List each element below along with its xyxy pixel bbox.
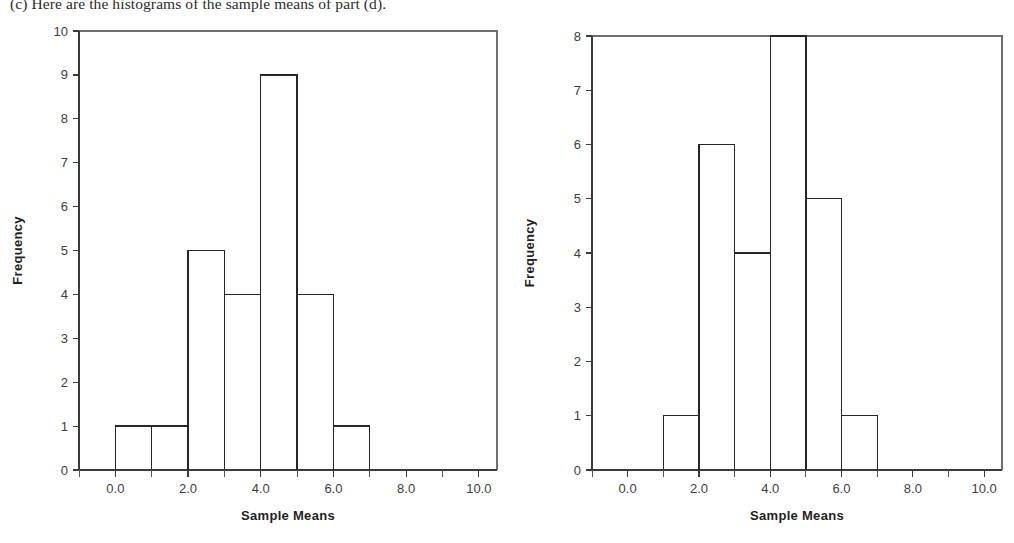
y-tick-label: 1 (61, 419, 68, 434)
x-tick-label: 10.0 (972, 481, 997, 496)
histogram-bar (333, 426, 369, 470)
x-axis-title: Sample Means (241, 508, 335, 523)
histogram-bar (152, 426, 188, 470)
histogram-bar (115, 426, 151, 470)
y-tick-label: 6 (574, 137, 581, 152)
left-histogram-svg: 0123456789100.02.04.06.08.010.0Sample Me… (0, 22, 510, 534)
histogram-bar (842, 416, 878, 470)
x-tick-label: 4.0 (761, 481, 779, 496)
y-tick-label: 3 (61, 331, 68, 346)
x-tick-label: 8.0 (904, 481, 922, 496)
y-tick-label: 4 (61, 287, 68, 302)
left-histogram-figure: 0123456789100.02.04.06.08.010.0Sample Me… (0, 22, 510, 534)
histogram-bar (188, 251, 224, 471)
x-tick-label: 6.0 (324, 481, 342, 496)
y-tick-label: 9 (61, 67, 68, 82)
right-histogram-figure: 0123456780.02.04.06.08.010.0Sample Means… (512, 22, 1014, 534)
x-tick-label: 2.0 (179, 481, 197, 496)
y-tick-label: 2 (61, 375, 68, 390)
histogram-bar (735, 253, 771, 470)
y-tick-label: 3 (574, 300, 581, 315)
histogram-bar (806, 199, 842, 470)
histogram-bar (224, 294, 260, 470)
y-tick-label: 5 (61, 243, 68, 258)
y-tick-label: 6 (61, 199, 68, 214)
y-axis-title: Frequency (10, 216, 25, 285)
y-tick-label: 1 (574, 408, 581, 423)
y-tick-label: 7 (61, 155, 68, 170)
y-tick-label: 2 (574, 354, 581, 369)
y-tick-label: 7 (574, 83, 581, 98)
right-histogram-svg: 0123456780.02.04.06.08.010.0Sample Means… (512, 22, 1014, 534)
histogram-bar (770, 36, 806, 470)
y-tick-label: 0 (61, 463, 68, 478)
x-tick-label: 0.0 (619, 481, 637, 496)
histogram-bar (699, 145, 735, 471)
x-tick-label: 6.0 (833, 481, 851, 496)
histogram-bar (261, 75, 297, 470)
histogram-bar (297, 294, 333, 470)
x-tick-label: 0.0 (106, 481, 124, 496)
y-tick-label: 5 (574, 191, 581, 206)
y-tick-label: 10 (54, 24, 68, 39)
y-axis-title: Frequency (522, 218, 537, 287)
x-tick-label: 2.0 (690, 481, 708, 496)
x-tick-label: 8.0 (397, 481, 415, 496)
x-tick-label: 10.0 (466, 481, 491, 496)
x-axis-title: Sample Means (750, 508, 844, 523)
histogram-bar (663, 416, 699, 470)
y-tick-label: 0 (574, 463, 581, 478)
plot-frame (592, 36, 1002, 470)
y-tick-label: 8 (574, 29, 581, 44)
x-tick-label: 4.0 (252, 481, 270, 496)
page-caption: (c) Here are the histograms of the sampl… (10, 0, 386, 13)
y-tick-label: 4 (574, 246, 581, 261)
plot-frame (79, 31, 497, 470)
y-tick-label: 8 (61, 111, 68, 126)
